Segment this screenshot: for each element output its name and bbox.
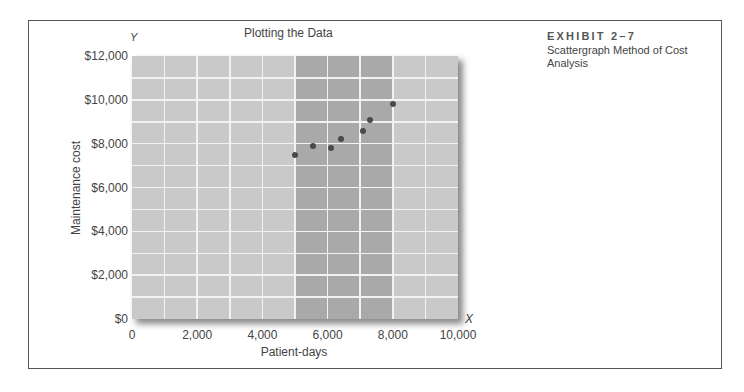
chart-title: Plotting the Data (244, 26, 333, 40)
data-point (367, 117, 373, 123)
y-tick-label: $4,000 (91, 224, 128, 238)
x-axis-letter: X (465, 312, 473, 326)
exhibit-description: Scattergraph Method of Cost Analysis (547, 44, 717, 70)
exhibit-number: EXHIBIT 2–7 (547, 30, 717, 42)
data-point (390, 101, 396, 107)
x-tick-label: 0 (129, 328, 136, 342)
gridline-horizontal (132, 121, 458, 123)
y-tick-label: $6,000 (91, 181, 128, 195)
y-tick-label: $0 (115, 312, 128, 326)
x-axis-label: Patient-days (261, 345, 328, 359)
gridline-horizontal (132, 296, 458, 298)
y-axis-letter: Y (130, 31, 137, 43)
gridline-horizontal (132, 99, 458, 101)
y-tick-label: $12,000 (85, 49, 128, 63)
gridline-horizontal (132, 231, 458, 233)
y-tick-label: $10,000 (85, 93, 128, 107)
gridline-horizontal (132, 77, 458, 79)
y-axis-label: Maintenance cost (69, 141, 83, 235)
x-tick-label: 2,000 (182, 328, 212, 342)
gridline-horizontal (132, 143, 458, 145)
data-point (292, 152, 298, 158)
plot-area (132, 56, 458, 319)
x-tick-label: 10,000 (440, 328, 477, 342)
data-point (338, 136, 344, 142)
gridline-horizontal (132, 165, 458, 167)
y-tick-label: $8,000 (91, 137, 128, 151)
x-tick-label: 4,000 (247, 328, 277, 342)
data-point (310, 143, 316, 149)
x-tick-label: 6,000 (313, 328, 343, 342)
exhibit-caption: EXHIBIT 2–7 Scattergraph Method of Cost … (547, 30, 717, 70)
gridline-horizontal (132, 274, 458, 276)
gridline-horizontal (132, 253, 458, 255)
x-tick-label: 8,000 (378, 328, 408, 342)
gridline-horizontal (132, 209, 458, 211)
data-point (328, 145, 334, 151)
gridline-horizontal (132, 187, 458, 189)
y-tick-label: $2,000 (91, 268, 128, 282)
